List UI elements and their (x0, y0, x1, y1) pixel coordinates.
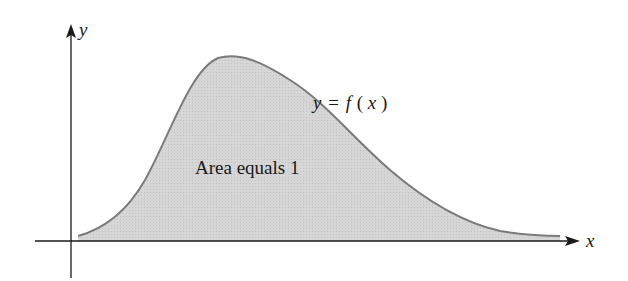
density-diagram: y x y = f ( x ) Area equals 1 (0, 0, 628, 281)
curve-label-equals: = (328, 92, 339, 113)
curve-label-y: y (311, 92, 322, 113)
area-label: Area equals 1 (195, 157, 299, 178)
x-axis-label: x (585, 230, 595, 251)
curve-label-f: f (346, 92, 354, 113)
curve-label: y = f ( x ) (311, 92, 387, 114)
curve-label-open-paren: ( (357, 92, 363, 114)
area-under-curve (78, 56, 560, 241)
y-axis-label: y (77, 19, 88, 40)
curve-label-close-paren: ) (381, 92, 387, 114)
curve-label-x: x (367, 92, 377, 113)
